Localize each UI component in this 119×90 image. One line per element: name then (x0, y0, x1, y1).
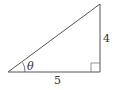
right-angle-marker (91, 63, 100, 72)
triangle (8, 4, 100, 72)
angle-arc (23, 63, 25, 73)
opposite-side-label: 4 (103, 32, 110, 45)
adjacent-side-label: 5 (54, 74, 61, 87)
angle-label: θ (27, 60, 34, 73)
right-triangle-diagram: θ 4 5 (0, 0, 119, 90)
